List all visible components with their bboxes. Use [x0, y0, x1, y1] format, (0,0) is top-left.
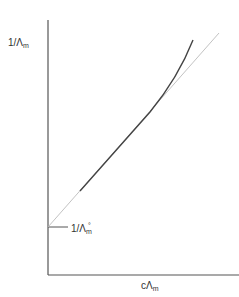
data-curve	[80, 40, 193, 191]
intercept-label: 1/Λm°	[71, 222, 91, 235]
y-axis-label: 1/Λm	[8, 38, 29, 49]
chart-canvas	[0, 0, 239, 297]
x-axis-label: cΛm	[141, 281, 159, 292]
